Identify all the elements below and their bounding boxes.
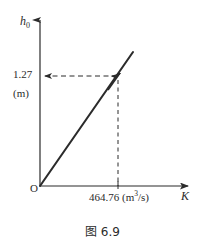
figure-caption: 图 6.9 bbox=[0, 222, 205, 239]
y-tick-unit-label: (m) bbox=[13, 88, 29, 99]
data-line-series-1 bbox=[40, 52, 133, 186]
x-axis-label: K bbox=[181, 190, 189, 202]
x-tick-value-label: 464.76 (m3/s) bbox=[89, 190, 149, 203]
plot-area bbox=[0, 0, 205, 244]
origin-label: O bbox=[30, 183, 38, 194]
y-tick-value-label: 1.27 bbox=[13, 69, 32, 80]
y-axis-label: h0 bbox=[20, 15, 30, 30]
figure-container: h0 K O 1.27 (m) 464.76 (m3/s) 图 6.9 bbox=[0, 0, 205, 244]
